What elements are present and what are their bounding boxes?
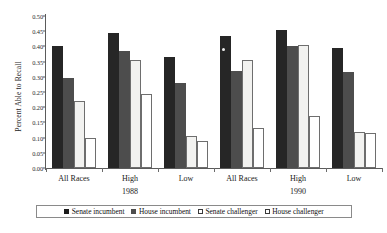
x-group-divider: [46, 168, 47, 172]
legend-swatch-icon: [198, 209, 203, 214]
chart-legend: Senate incumbentHouse incumbentSenate ch…: [36, 205, 352, 218]
bar-chart: Percent Able to Recall 0.500.450.400.350…: [0, 0, 387, 233]
x-category-label: All Races: [46, 174, 102, 183]
bar: [197, 141, 208, 168]
x-category-label: High: [102, 174, 158, 183]
legend-swatch-icon: [64, 209, 69, 214]
y-tick-label: 0.10: [32, 134, 43, 141]
bar: [85, 138, 96, 168]
bar: [332, 48, 343, 168]
x-category-label: High: [270, 174, 326, 183]
bar: [164, 57, 175, 168]
bar-group: [270, 16, 326, 168]
y-tick-label: 0.30: [32, 73, 43, 80]
legend-swatch-icon: [265, 209, 270, 214]
bar: [52, 46, 63, 168]
bar-group: [158, 16, 214, 168]
bar: [354, 132, 365, 168]
bar: [63, 78, 74, 168]
bar: [130, 60, 141, 168]
bar: [253, 128, 264, 168]
legend-label: House incumbent: [139, 207, 191, 216]
y-tick-label: 0.35: [32, 58, 43, 65]
y-tick-label: 0.20: [32, 104, 43, 111]
legend-label: Senate incumbent: [72, 207, 125, 216]
y-tick-label: 0.05: [32, 149, 43, 156]
bar: [74, 101, 85, 168]
x-era-label: 1988: [46, 187, 214, 196]
x-category-label: All Races: [214, 174, 270, 183]
bar: [298, 45, 309, 168]
y-axis-title: Percent Able to Recall: [14, 17, 23, 177]
x-group-divider: [326, 168, 327, 172]
scan-artifact-speck: [222, 48, 225, 51]
x-era-label: 1990: [214, 187, 382, 196]
y-tick-label: 0.45: [32, 28, 43, 35]
bar-group: [214, 16, 270, 168]
plot-area: 0.500.450.400.350.300.250.200.150.100.05…: [46, 16, 382, 168]
legend-label: Senate challenger: [205, 207, 257, 216]
bar: [343, 72, 354, 168]
bar: [231, 71, 242, 168]
y-tick-label: 0.00: [32, 165, 43, 172]
y-tick-label: 0.15: [32, 119, 43, 126]
y-tick-label: 0.25: [32, 89, 43, 96]
x-group-divider: [270, 168, 271, 172]
bar: [141, 94, 152, 168]
legend-item: House incumbent: [131, 207, 190, 216]
bar: [108, 33, 119, 168]
x-category-label: Low: [158, 174, 214, 183]
bar: [119, 51, 130, 168]
x-category-label: Low: [326, 174, 382, 183]
legend-item: Senate challenger: [198, 207, 258, 216]
x-group-divider: [158, 168, 159, 172]
x-group-divider: [382, 168, 383, 172]
y-tick-label: 0.50: [32, 13, 43, 20]
legend-item: Senate incumbent: [64, 207, 124, 216]
x-group-divider: [102, 168, 103, 172]
bar: [186, 136, 197, 168]
legend-label: House challenger: [272, 207, 324, 216]
bar-group: [326, 16, 382, 168]
y-tick-label: 0.40: [32, 43, 43, 50]
bar: [365, 133, 376, 168]
legend-swatch-icon: [131, 209, 136, 214]
bar: [276, 30, 287, 168]
bar: [175, 83, 186, 168]
bar: [242, 60, 253, 168]
x-group-divider: [214, 168, 215, 172]
bar: [220, 36, 231, 168]
bar-group: [102, 16, 158, 168]
legend-item: House challenger: [265, 207, 324, 216]
bar: [309, 116, 320, 168]
bar: [287, 46, 298, 168]
bar-group: [46, 16, 102, 168]
